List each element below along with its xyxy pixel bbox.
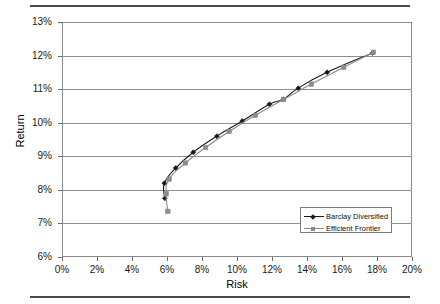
series-line: [166, 52, 373, 211]
legend-swatch-efficient-frontier: [304, 224, 324, 233]
series-line: [163, 53, 372, 198]
y-axis-title: Return: [14, 101, 26, 161]
series-efficient-frontier: [164, 50, 376, 214]
legend-label: Efficient Frontier: [326, 224, 380, 233]
chart-legend: Barclay Diversified Efficient Frontier: [300, 207, 392, 233]
legend-label: Barclay Diversified: [326, 212, 388, 221]
data-point-marker: [183, 161, 187, 165]
legend-item-efficient-frontier[interactable]: Efficient Frontier: [304, 223, 391, 234]
efficient-frontier-chart: 6%7%8%9%10%11%12%13% 0%2%4%6%8%10%12%14%…: [0, 0, 440, 304]
data-series-layer: [0, 0, 440, 304]
legend-item-barclay-diversified[interactable]: Barclay Diversified: [304, 211, 391, 222]
diamond-marker-icon: [310, 214, 316, 220]
data-point-marker: [371, 50, 375, 54]
data-point-marker: [342, 65, 346, 69]
data-point-marker: [281, 97, 285, 101]
square-marker-icon: [311, 227, 315, 231]
data-point-marker: [166, 209, 170, 213]
data-point-marker: [164, 192, 168, 196]
data-point-marker: [309, 82, 313, 86]
data-point-marker: [227, 129, 231, 133]
legend-swatch-barclay-diversified: [304, 212, 324, 221]
data-point-marker: [325, 70, 330, 75]
series-barclay-diversified: [162, 50, 375, 200]
data-point-marker: [167, 177, 171, 181]
x-axis-title: Risk: [62, 278, 412, 290]
data-point-marker: [253, 113, 257, 117]
data-point-marker: [203, 145, 207, 149]
